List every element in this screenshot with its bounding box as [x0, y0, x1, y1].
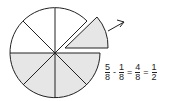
- operator: =: [143, 67, 148, 77]
- denominator: 2: [152, 73, 157, 81]
- fraction-term: 1 8: [119, 63, 124, 81]
- fraction-term: 4 8: [135, 63, 140, 81]
- denominator: 8: [119, 73, 124, 81]
- fraction-equation: 5 8 - 1 8 = 4 8 = 1 2: [104, 63, 158, 81]
- denominator: 8: [135, 73, 140, 81]
- fraction-term: 1 2: [152, 63, 157, 81]
- numerator: 1: [152, 63, 157, 71]
- fraction-term: 5 8: [105, 63, 110, 81]
- operator: =: [127, 67, 132, 77]
- denominator: 8: [105, 73, 110, 81]
- numerator: 1: [119, 63, 124, 71]
- fraction-circle-diagram: [0, 0, 177, 101]
- operator: -: [113, 67, 116, 77]
- numerator: 5: [105, 63, 110, 71]
- arrow-icon: [108, 22, 124, 31]
- numerator: 4: [135, 63, 140, 71]
